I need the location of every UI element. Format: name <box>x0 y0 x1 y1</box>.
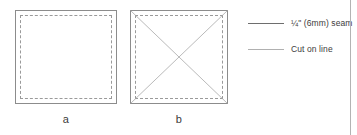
diagram-square-b <box>130 10 228 104</box>
sewing-pattern-figure: a b ¼" (6mm) seam Cut on line <box>0 0 357 135</box>
page-margin-rule <box>350 0 351 135</box>
square-b-diagonal-lines <box>130 10 228 104</box>
square-a-label: a <box>15 113 117 125</box>
cut-line-line-swatch <box>248 49 284 50</box>
seam-allowance-label: ¼" (6mm) seam <box>291 18 352 28</box>
legend-item-seam-allowance: ¼" (6mm) seam <box>248 18 352 28</box>
cut-line-label: Cut on line <box>291 44 333 54</box>
seam-allowance-line-swatch <box>248 23 284 24</box>
legend-item-cut-line: Cut on line <box>248 44 333 54</box>
diagram-square-a <box>15 10 117 104</box>
square-b-label: b <box>130 113 228 125</box>
square-a-seam-line <box>20 15 112 99</box>
